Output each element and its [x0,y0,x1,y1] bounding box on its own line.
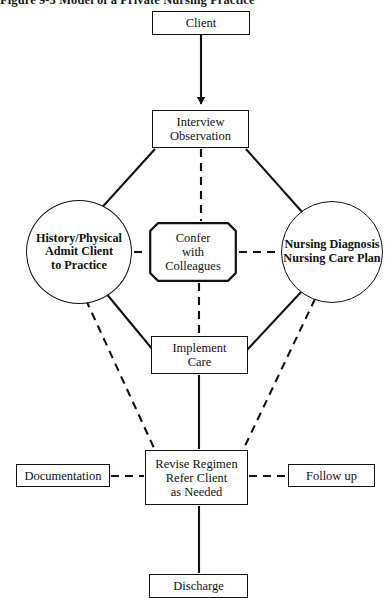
node-client[interactable]: Client [152,11,250,35]
node-revise-regimen-label: Revise Regimen Refer Client as Needed [155,457,237,499]
node-nursing-diagnosis-label: Nursing Diagnosis Nursing Care Plan [283,238,380,265]
node-follow-up[interactable]: Follow up [288,464,375,487]
edge-diagnosis-revise [244,299,315,448]
edge-interview-diagnosis [246,149,303,213]
node-discharge-label: Discharge [173,579,223,593]
node-implement-care[interactable]: Implement Care [151,336,248,374]
node-implement-care-label: Implement Care [172,341,226,369]
edge-diagnosis-implement [247,291,302,350]
node-follow-up-label: Follow up [306,469,357,483]
edge-history-implement [105,292,153,350]
node-interview-observation[interactable]: Interview Observation [152,110,249,148]
node-revise-regimen[interactable]: Revise Regimen Refer Client as Needed [145,450,248,505]
node-documentation-label: Documentation [24,469,101,483]
node-nursing-diagnosis[interactable]: Nursing Diagnosis Nursing Care Plan [281,201,383,303]
node-history-physical-label: History/Physical Admit Client to Practic… [36,232,122,273]
node-confer-with-colleagues[interactable]: Confer with Colleagues [149,222,237,282]
node-interview-observation-label: Interview Observation [170,115,231,143]
edge-interview-history [97,149,155,213]
node-confer-with-colleagues-label: Confer with Colleagues [165,231,221,273]
node-history-physical[interactable]: History/Physical Admit Client to Practic… [26,200,132,304]
edge-history-revise [86,300,154,448]
node-documentation[interactable]: Documentation [16,464,110,487]
node-discharge[interactable]: Discharge [149,574,248,598]
node-client-label: Client [186,16,217,30]
